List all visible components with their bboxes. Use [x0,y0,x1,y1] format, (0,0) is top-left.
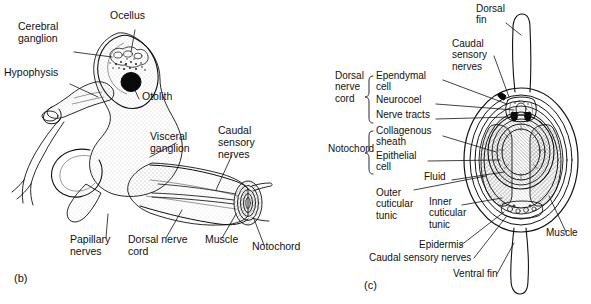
label-line: nerves [218,148,250,160]
label-line: cord [335,93,354,104]
label-line: cuticular [429,207,467,218]
label-line: tunic [429,219,450,230]
label-otolith: Otolith [142,90,173,102]
label-line: Muscle [546,227,578,238]
label-line: Notochord [252,240,301,252]
label-line: Muscle [205,233,238,245]
label-line: Visceral [150,130,187,142]
label-line: nerve [335,81,360,92]
label-neurocoel: Neurocoel [376,94,422,105]
label-line: Collagenous [376,125,432,136]
label-line: Ependymal [376,70,426,81]
label-line: ganglion [150,142,190,154]
label-fluid: Fluid [424,171,446,182]
label-line: Notochord [328,143,374,154]
label-nerve-tracts: Nerve tracts [376,109,430,120]
label-cerebral-ganglion: Cerebralganglion [18,20,58,44]
label-line: Nerve tracts [376,109,430,120]
label-line: Ventral fin [453,268,497,279]
label-line: ganglion [18,32,58,44]
label-ocellus: Ocellus [110,9,145,21]
panel-id-c: (c) [364,279,377,291]
label-caudal-sensory-nerves-c: Caudalsensorynerves [452,38,487,72]
label-line: cell [376,161,391,172]
label-line: cord [128,245,149,257]
label-line: nerves [452,61,482,72]
label-line: Caudal [218,124,251,136]
label-notochord: Notochord [252,240,301,252]
label-notochord-c: Notochord [328,143,374,154]
label-line: Dorsal nerve [128,233,188,245]
label-line: nerves [70,245,102,257]
label-visceral-ganglion: Visceralganglion [150,130,190,154]
label-line: Epithelial [376,150,417,161]
label-line: sensory [452,49,487,60]
otolith-shape [121,73,141,92]
label-line: Hypophysis [4,66,58,78]
label-line: Otolith [142,90,173,102]
label-caudal-sensory-nerves-bottom: Caudal sensory nerves [369,252,471,263]
label-line: Inner [429,196,452,207]
label-line: Outer [376,187,402,198]
notochord-shape [488,115,554,189]
label-line: tunic [376,210,397,221]
label-line: fin [476,14,487,25]
label-muscle-c: Muscle [546,227,578,238]
label-line: sheath [376,136,406,147]
label-muscle: Muscle [205,233,238,245]
label-hypophysis: Hypophysis [4,66,58,78]
label-line: Dorsal [476,3,505,14]
label-line: cuticular [376,198,414,209]
label-line: cell [376,81,391,92]
label-ventral-fin: Ventral fin [453,268,497,279]
label-epidermis: Epidermis [419,239,463,250]
label-line: Caudal sensory nerves [369,252,471,263]
label-line: Ocellus [110,9,145,21]
label-line: Neurocoel [376,94,422,105]
panel-id-b: (b) [14,272,27,284]
label-line: Caudal [452,38,484,49]
label-line: Papillary [70,233,111,245]
label-line: Fluid [424,171,446,182]
label-line: Dorsal [335,70,364,81]
label-line: sensory [218,136,256,148]
label-line: Cerebral [18,20,58,32]
label-line: Epidermis [419,239,463,250]
anatomy-figure: CerebralganglionOcellusHypophysisOtolith… [0,0,591,304]
